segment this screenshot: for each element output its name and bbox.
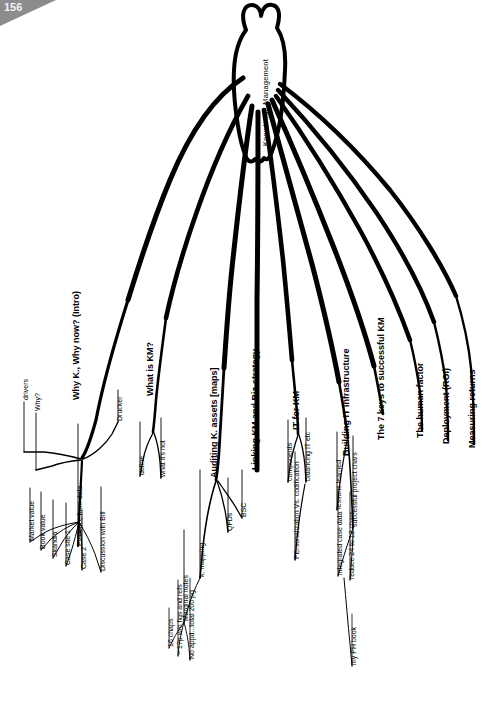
branch-stroke-intro <box>128 78 243 300</box>
subbranch-label-evidence: Evidence from data <box>76 486 83 546</box>
subbranch-label-drivers: drivers <box>22 379 29 400</box>
center-node-label: Knowledge Management <box>262 59 270 146</box>
branch-stroke-human-factor <box>276 96 410 340</box>
leaf-label-case-2: Case 2 <box>80 547 87 569</box>
branch-stroke-what-is-km <box>166 96 248 318</box>
note-label-reduce: reduce 24 to 12 chars <box>348 511 355 579</box>
subbranch-label-personalization: PErsonalization Vs. codification <box>293 461 300 559</box>
leaf-label-case-site-1: Case site 1 <box>64 530 71 565</box>
branch-label-deployment: Deployment (ROI) <box>442 368 451 444</box>
note-label-case-data: integrated case data <box>336 512 343 575</box>
subbranch-label-balancing-it: balancing IT etc <box>304 432 311 481</box>
note-label-pages: ~ 17p w/o figs and refs <box>176 584 183 655</box>
branch-label-building-it: Building IT infrastructure <box>342 348 351 456</box>
branch-label-human-factor: The human factor <box>416 362 425 438</box>
subbranch-label-define: define <box>138 456 145 475</box>
leaf-label-book-value: Book value <box>39 514 46 549</box>
subbranch-label-qfds: QFDs <box>226 513 233 531</box>
branch-label-it-for-km: IT for KM <box>292 391 301 430</box>
subbranch-label-components: components <box>286 443 293 481</box>
subbranch-label-k-mapping: k. mapping <box>198 543 205 577</box>
mindmap-canvas: 156 <box>0 0 483 706</box>
branch-label-seven-keys: The 7 keys to successful KM <box>377 317 386 440</box>
leaf-label-skandia: Skandia <box>51 532 58 557</box>
note-label-total: No appd...total 200 pg <box>188 590 195 659</box>
subbranch-label-drucker: Drucker <box>116 396 123 421</box>
note-label-chaps: 16 chaps <box>167 619 174 647</box>
branch-stroke-measuring <box>280 84 456 296</box>
subbranch-why <box>36 460 81 470</box>
branch-stroke-auditing <box>224 106 252 368</box>
branch-label-intro: Why K., Why now? (Intro) <box>72 291 81 400</box>
subbranch-label-bsc: BSC <box>240 503 247 517</box>
subbranch-label-what-its-not: what it's not <box>159 440 166 477</box>
subbranch-label-lessons-learned: lessons learned <box>335 460 342 509</box>
subbranch-drivers <box>24 452 81 459</box>
branch-label-linking: Linking KM and Biz-strategy <box>251 349 260 470</box>
leaf-label-discussion-bill: Discussion with Bill <box>99 511 106 571</box>
note-label-ph-book: my PH book <box>350 627 357 665</box>
leaf-label-market-value: Market value <box>28 501 35 541</box>
branch-label-measuring: Measuring returns <box>468 369 477 448</box>
subbranch-label-why: Why? <box>34 393 41 411</box>
branch-stroke-deployment <box>278 90 434 322</box>
branch-label-what-is-km: What is KM? <box>146 342 155 396</box>
branch-stroke-intro-tail <box>82 300 128 458</box>
branch-label-auditing: Auditing K. assets [maps] <box>210 367 219 478</box>
